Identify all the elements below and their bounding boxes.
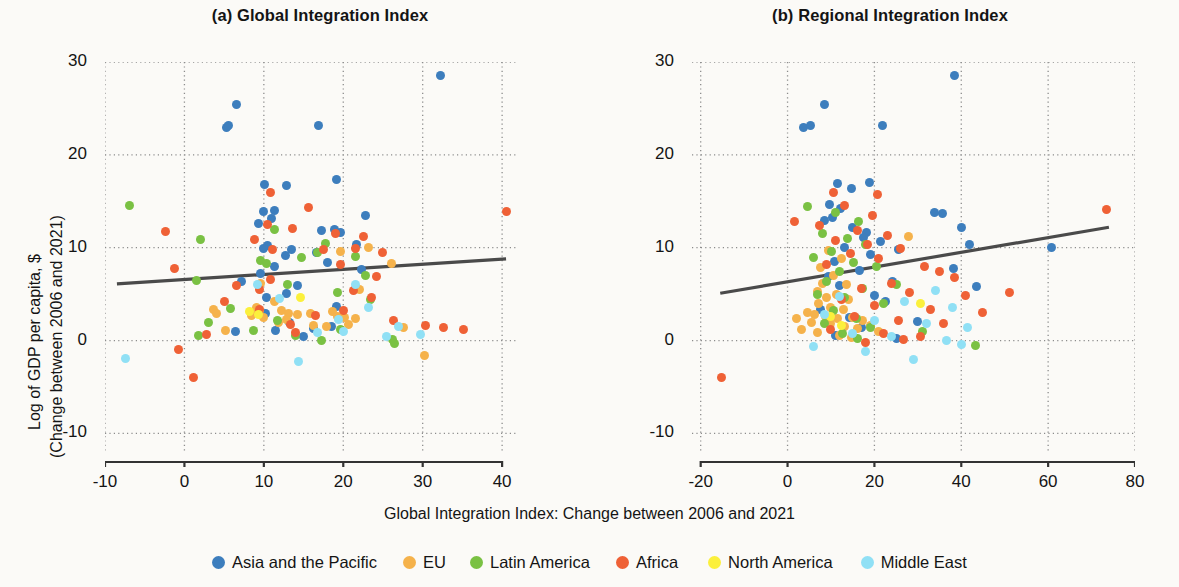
scatter-point: [894, 316, 903, 325]
scatter-point: [950, 71, 959, 80]
scatter-point: [913, 317, 922, 326]
scatter-point: [972, 282, 981, 291]
scatter-point: [317, 226, 326, 235]
scatter-point: [870, 291, 879, 300]
legend-swatch-icon: [708, 556, 721, 569]
scatter-point: [865, 178, 874, 187]
scatter-point: [367, 293, 376, 302]
legend-item-label: EU: [423, 554, 446, 571]
scatter-point: [262, 259, 271, 268]
x-tick-label: 60: [1018, 472, 1078, 492]
scatter-point: [883, 231, 892, 240]
figure-root: (a) Global Integration Index (b) Regiona…: [0, 0, 1179, 587]
scatter-point: [939, 319, 948, 328]
scatter-point: [254, 219, 263, 228]
scatter-point: [281, 251, 290, 260]
scatter-point: [792, 314, 801, 323]
scatter-point: [314, 121, 323, 130]
legend-item-eu[interactable]: EU: [403, 554, 446, 571]
panel-a-title: (a) Global Integration Index: [60, 6, 580, 25]
scatter-point: [161, 227, 170, 236]
scatter-point: [282, 181, 291, 190]
scatter-point: [948, 303, 957, 312]
x-tick-label: 40: [931, 472, 991, 492]
scatter-point: [293, 310, 302, 319]
scatter-point: [861, 338, 870, 347]
scatter-point: [938, 209, 947, 218]
scatter-point: [336, 247, 345, 256]
legend-item-north-america[interactable]: North America: [708, 554, 833, 571]
panel-b-plot: [692, 62, 1135, 452]
panel-b-points: [692, 62, 1135, 452]
x-tick-label: 20: [313, 472, 373, 492]
scatter-point: [961, 291, 970, 300]
legend-item-africa[interactable]: Africa: [616, 554, 678, 571]
legend-item-latin-america[interactable]: Latin America: [470, 554, 590, 571]
scatter-point: [863, 240, 872, 249]
scatter-point: [835, 267, 844, 276]
scatter-point: [916, 299, 925, 308]
scatter-point: [1005, 288, 1014, 297]
x-axis-spine: [701, 462, 1135, 467]
scatter-point: [842, 280, 851, 289]
scatter-point: [304, 203, 313, 212]
scatter-point: [288, 224, 297, 233]
x-tick-label: 40: [472, 472, 532, 492]
scatter-point: [896, 244, 905, 253]
scatter-point: [899, 335, 908, 344]
legend-item-middle-east[interactable]: Middle East: [861, 554, 967, 571]
scatter-point: [957, 223, 966, 232]
legend-item-label: Africa: [636, 554, 678, 571]
y-tick-label: 20: [39, 144, 87, 164]
scatter-point: [299, 332, 308, 341]
scatter-point: [250, 235, 259, 244]
scatter-point: [879, 329, 888, 338]
scatter-point: [297, 253, 306, 262]
scatter-point: [840, 201, 849, 210]
scatter-point: [275, 294, 284, 303]
scatter-point: [296, 293, 305, 302]
scatter-point: [170, 264, 179, 273]
scatter-point: [372, 272, 381, 281]
scatter-point: [803, 202, 812, 211]
scatter-point: [421, 321, 430, 330]
scatter-point: [266, 188, 275, 197]
scatter-point: [963, 323, 972, 332]
scatter-point: [887, 279, 896, 288]
scatter-point: [293, 281, 302, 290]
scatter-point: [364, 243, 373, 252]
scatter-point: [900, 297, 909, 306]
scatter-point: [361, 211, 370, 220]
scatter-point: [334, 315, 343, 324]
scatter-point: [868, 211, 877, 220]
scatter-point: [254, 310, 263, 319]
x-tick-label: 0: [758, 472, 818, 492]
scatter-point: [196, 235, 205, 244]
scatter-point: [835, 292, 844, 301]
scatter-point: [359, 232, 368, 241]
scatter-point: [273, 316, 282, 325]
scatter-point: [922, 319, 931, 328]
scatter-point: [268, 245, 277, 254]
scatter-point: [873, 190, 882, 199]
y-tick-label: -10: [626, 422, 674, 442]
scatter-point: [416, 330, 425, 339]
scatter-point: [351, 314, 360, 323]
scatter-point: [916, 332, 925, 341]
y-tick-label: 30: [39, 51, 87, 71]
scatter-point: [387, 259, 396, 268]
scatter-point: [935, 267, 944, 276]
scatter-point: [256, 269, 265, 278]
scatter-point: [848, 329, 857, 338]
legend-item-asia-and-the-pacific[interactable]: Asia and the Pacific: [212, 554, 377, 571]
legend-swatch-icon: [212, 556, 225, 569]
scatter-point: [323, 258, 332, 267]
scatter-point: [1102, 205, 1111, 214]
scatter-point: [1047, 243, 1056, 252]
scatter-point: [317, 336, 326, 345]
scatter-point: [220, 297, 229, 306]
y-tick-label: -10: [39, 422, 87, 442]
x-tick-label: -20: [671, 472, 731, 492]
scatter-point: [965, 240, 974, 249]
scatter-point: [231, 327, 240, 336]
